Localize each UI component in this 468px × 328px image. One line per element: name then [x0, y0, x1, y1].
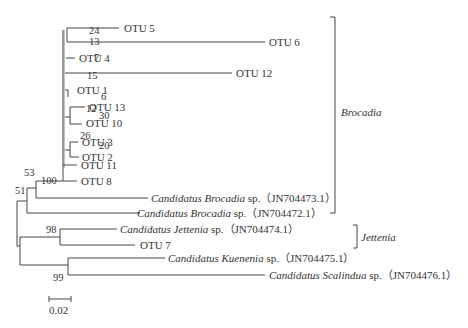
- taxon-otu12: OTU 12: [236, 67, 272, 79]
- bootstrap-value: 12: [86, 103, 97, 114]
- taxon-scalindua-jn704476: Candidatus Scalindua sp.（JN704476.1）: [269, 269, 457, 281]
- bootstrap-value: 24: [89, 25, 100, 36]
- taxon-brocadia-jn704472: Candidatus Brocadia sp.（JN704472.1）: [137, 207, 322, 219]
- taxon-kuenenia-jn704475: Candidatus Kuenenia sp.（JN704475.1）: [168, 252, 354, 264]
- bootstrap-value: 7: [94, 52, 99, 63]
- taxon-otu6: OTU 6: [269, 36, 300, 48]
- bootstrap-value: 13: [89, 36, 100, 47]
- bootstrap-value: 100: [41, 175, 57, 186]
- taxon-brocadia-jn704473: Candidatus Brocadia sp.（JN704473.1）: [151, 192, 336, 204]
- bootstrap-value: 98: [46, 224, 57, 235]
- taxon-otu11: OTU 11: [81, 159, 117, 171]
- bootstrap-value: 53: [24, 167, 35, 178]
- bootstrap-value: 15: [87, 70, 98, 81]
- bootstrap-value: 30: [99, 110, 110, 121]
- bootstrap-value: 6: [101, 91, 106, 102]
- bootstrap-value: 20: [99, 140, 110, 151]
- bootstrap-value: 51: [15, 185, 26, 196]
- clade-label-jettenia: Jettenia: [361, 231, 396, 243]
- bootstrap-value: 26: [80, 130, 91, 141]
- taxon-otu8: OTU 8: [81, 175, 112, 187]
- taxon-otu7: OTU 7: [140, 239, 171, 251]
- bootstrap-value: 99: [53, 272, 64, 283]
- taxon-otu5: OTU 5: [124, 22, 155, 34]
- clade-label-brocadia: Brocadia: [341, 106, 382, 118]
- scale-bar-label: 0.02: [49, 304, 68, 316]
- taxon-jettenia-jn704474: Candidatus Jettenia sp.（JN704474.1）: [120, 223, 299, 235]
